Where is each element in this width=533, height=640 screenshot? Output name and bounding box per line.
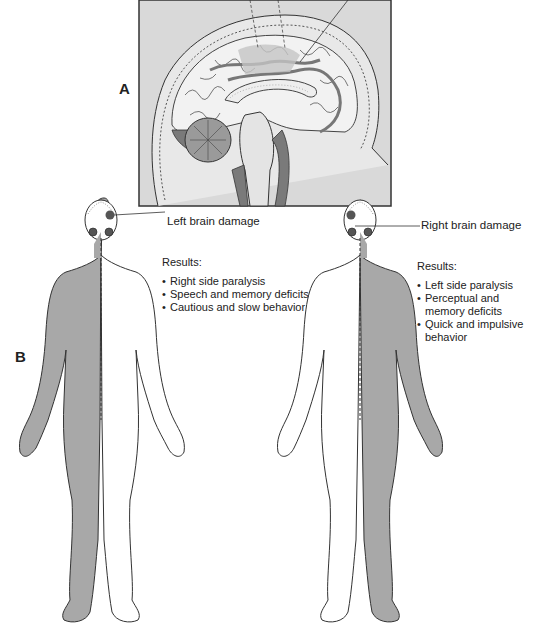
left-results-list: Right side paralysis Speech and memory d… [162, 275, 332, 314]
right-results: Results: Left side paralysis Perceptual … [417, 260, 532, 344]
right-results-list: Left side paralysis Perceptual and memor… [417, 279, 532, 344]
right-result-item: Perceptual and memory deficits [417, 292, 532, 318]
left-result-item: Cautious and slow behavior [162, 301, 332, 314]
left-brain-damage-callout: Left brain damage [167, 215, 260, 227]
right-result-item: Left side paralysis [417, 279, 532, 292]
brain-section-image [139, 0, 391, 206]
left-results: Results: Right side paralysis Speech and… [162, 256, 332, 314]
left-result-item: Right side paralysis [162, 275, 332, 288]
damage-marker-left-brain [106, 211, 115, 220]
right-results-heading: Results: [417, 260, 532, 273]
right-result-item: Quick and impulsive behavior [417, 318, 532, 344]
panel-b-label: B [15, 348, 26, 365]
left-results-heading: Results: [162, 256, 332, 269]
right-brain-damage-callout: Right brain damage [421, 219, 521, 231]
left-result-item: Speech and memory deficits [162, 288, 332, 301]
left-body-figure [19, 198, 184, 622]
damage-marker-right-brain [347, 211, 356, 220]
